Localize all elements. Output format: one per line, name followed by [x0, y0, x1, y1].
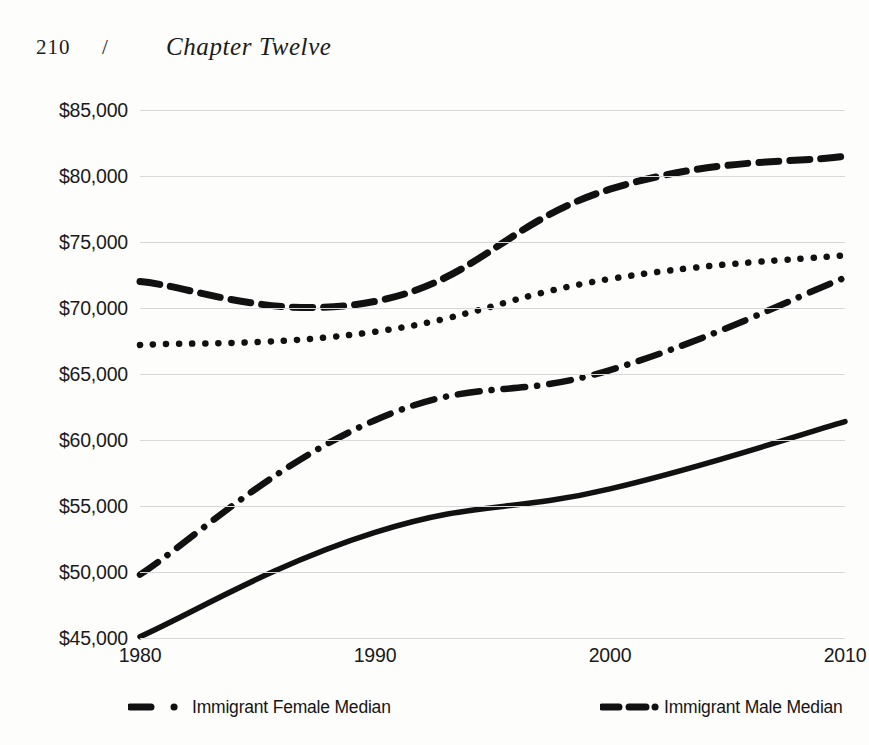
gridline	[140, 506, 845, 507]
y-axis: $85,000$80,000$75,000$70,000$65,000$60,0…	[0, 110, 128, 638]
line-chart-figure: $85,000$80,000$75,000$70,000$65,000$60,0…	[0, 78, 869, 745]
x-axis-tick-label: 2010	[824, 644, 867, 667]
legend-swatch-dashed-icon	[600, 698, 662, 716]
gridline	[140, 440, 845, 441]
legend-label: Immigrant Male Median	[664, 697, 843, 718]
legend-entry[interactable]: Immigrant Male Median	[600, 693, 843, 721]
series-line	[140, 278, 845, 575]
y-axis-tick-label: $65,000	[59, 363, 128, 386]
gridline	[140, 176, 845, 177]
chapter-title: Chapter Twelve	[166, 33, 332, 61]
y-axis-tick-label: $75,000	[59, 231, 128, 254]
series-line	[140, 422, 845, 637]
y-axis-tick-label: $70,000	[59, 297, 128, 320]
legend-swatch-dash-dot-icon	[128, 698, 186, 716]
page-number: 210	[36, 35, 102, 60]
x-axis: 1980199020002010	[140, 644, 845, 674]
gridline	[140, 638, 845, 639]
legend-entry[interactable]: Immigrant Female Median	[128, 693, 391, 721]
y-axis-tick-label: $80,000	[59, 165, 128, 188]
book-page: 210 / Chapter Twelve $85,000$80,000$75,0…	[0, 0, 869, 745]
gridline	[140, 110, 845, 111]
y-axis-tick-label: $85,000	[59, 99, 128, 122]
plot-area	[140, 110, 845, 638]
y-axis-tick-label: $55,000	[59, 495, 128, 518]
y-axis-tick-label: $45,000	[59, 627, 128, 650]
gridline	[140, 242, 845, 243]
gridline	[140, 308, 845, 309]
chart-legend: Immigrant Female MedianImmigrant Male Me…	[0, 693, 869, 733]
gridline	[140, 572, 845, 573]
x-axis-tick-label: 1990	[354, 644, 397, 667]
series-line	[140, 156, 845, 307]
x-axis-tick-label: 2000	[589, 644, 632, 667]
running-head-separator: /	[102, 35, 166, 60]
y-axis-tick-label: $60,000	[59, 429, 128, 452]
y-axis-tick-label: $50,000	[59, 561, 128, 584]
x-axis-tick-label: 1980	[119, 644, 162, 667]
legend-label: Immigrant Female Median	[192, 697, 391, 718]
running-head: 210 / Chapter Twelve	[36, 30, 536, 64]
gridline	[140, 374, 845, 375]
